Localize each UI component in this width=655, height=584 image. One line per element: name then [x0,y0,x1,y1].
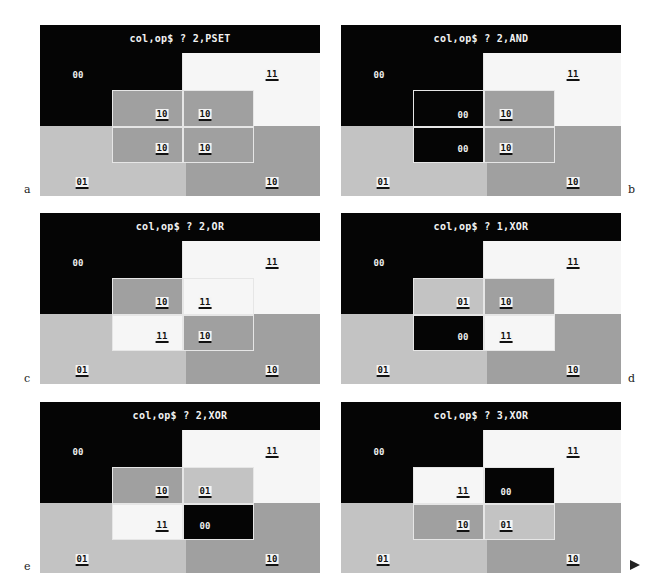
overlay-label-tr: 10 [199,109,212,121]
quadrant-label-br: 10 [266,177,279,189]
graphics-screen: col,op$ ? 2,PSET0011011010101010 [40,25,320,196]
overlay-cell-tl [413,467,484,504]
panel-letter-b: b [628,183,635,196]
panel-d: col,op$ ? 1,XOR0011011001100011 [341,213,621,384]
graphics-screen: col,op$ ? 1,XOR0011011001100011 [341,213,621,384]
overlay-label-bl: 00 [457,144,470,154]
panel-e: col,op$ ? 2,XOR0011011010011100 [40,402,320,573]
panel-letter-c: c [24,372,30,385]
overlay-label-tr: 10 [500,109,513,121]
graphics-screen: col,op$ ? 2,OR0011011010111110 [40,213,320,384]
quadrant-label-tr: 11 [266,446,279,458]
overlay-cell-tr [484,278,555,315]
graphics-screen: col,op$ ? 2,AND0011011000100010 [341,25,621,196]
quadrant-label-br: 10 [266,365,279,377]
overlay-cell-br [183,315,254,351]
quadrant-label-br: 10 [567,365,580,377]
overlay-label-tl: 10 [156,109,169,121]
quadrant-label-bl: 01 [377,554,390,566]
panel-f: col,op$ ? 3,XOR0011011011001001 [341,402,621,573]
overlay-cell-bl [413,504,484,540]
overlay-label-tl: 10 [156,486,169,498]
overlay-label-bl: 11 [156,520,169,532]
quadrant-label-tl: 00 [72,447,85,457]
overlay-label-bl: 11 [156,331,169,343]
quadrant-label-tl: 00 [373,70,386,80]
quadrant-label-br: 10 [266,554,279,566]
panel-c: col,op$ ? 2,OR0011011010111110 [40,213,320,384]
overlay-cell-bl [413,127,484,163]
quadrant-label-bl: 01 [76,177,89,189]
page-turn-arrow-icon [630,560,640,570]
overlay-label-br: 11 [500,331,513,343]
panel-letter-a: a [24,183,31,196]
prompt-bar: col,op$ ? 3,XOR [341,402,621,430]
overlay-cell-br [484,504,555,540]
overlay-cell-tr [183,278,254,315]
overlay-label-br: 00 [199,521,212,531]
panel-letter-e: e [24,560,31,573]
overlay-cell-tl [112,278,183,315]
overlay-cell-bl [112,504,183,540]
overlay-label-bl: 10 [457,520,470,532]
overlay-cell-tl [413,90,484,127]
overlay-cell-tr [484,467,555,504]
quadrant-label-tl: 00 [72,70,85,80]
overlay-label-tr: 11 [199,297,212,309]
graphics-screen: col,op$ ? 3,XOR0011011011001001 [341,402,621,573]
prompt-bar: col,op$ ? 2,PSET [40,25,320,53]
quadrant-label-bl: 01 [377,177,390,189]
quadrant-label-tl: 00 [373,447,386,457]
overlay-label-tl: 01 [457,297,470,309]
overlay-cell-tl [112,90,183,127]
overlay-cell-bl [413,315,484,351]
panel-a: col,op$ ? 2,PSET0011011010101010 [40,25,320,196]
panel-b: col,op$ ? 2,AND0011011000100010 [341,25,621,196]
overlay-label-tl: 11 [457,486,470,498]
overlay-label-tr: 01 [199,486,212,498]
prompt-bar: col,op$ ? 2,OR [40,213,320,241]
overlay-cell-tr [484,90,555,127]
overlay-label-br: 10 [500,143,513,155]
quadrant-label-tr: 11 [266,257,279,269]
quadrant-label-tl: 00 [72,258,85,268]
overlay-cell-br [484,315,555,351]
overlay-label-tl: 00 [457,110,470,120]
quadrant-label-bl: 01 [76,365,89,377]
quadrant-label-br: 10 [567,177,580,189]
overlay-label-br: 10 [199,143,212,155]
overlay-cell-bl [112,315,183,351]
overlay-cell-tl [413,278,484,315]
overlay-cell-tl [112,467,183,504]
quadrant-label-tr: 11 [567,69,580,81]
overlay-label-tl: 10 [156,297,169,309]
graphics-screen: col,op$ ? 2,XOR0011011010011100 [40,402,320,573]
quadrant-label-bl: 01 [76,554,89,566]
quadrant-label-br: 10 [567,554,580,566]
prompt-bar: col,op$ ? 2,AND [341,25,621,53]
quadrant-label-tr: 11 [567,446,580,458]
overlay-cell-br [484,127,555,163]
prompt-bar: col,op$ ? 2,XOR [40,402,320,430]
quadrant-label-tl: 00 [373,258,386,268]
overlay-label-bl: 00 [457,332,470,342]
prompt-bar: col,op$ ? 1,XOR [341,213,621,241]
quadrant-label-bl: 01 [377,365,390,377]
panel-letter-d: d [628,372,635,385]
overlay-cell-bl [112,127,183,163]
overlay-cell-tr [183,90,254,127]
overlay-label-tr: 00 [500,487,513,497]
overlay-label-bl: 10 [156,143,169,155]
quadrant-label-tr: 11 [266,69,279,81]
overlay-label-br: 10 [199,331,212,343]
overlay-cell-br [183,127,254,163]
overlay-label-tr: 10 [500,297,513,309]
overlay-cell-br [183,504,254,540]
quadrant-label-tr: 11 [567,257,580,269]
overlay-cell-tr [183,467,254,504]
overlay-label-br: 01 [500,520,513,532]
